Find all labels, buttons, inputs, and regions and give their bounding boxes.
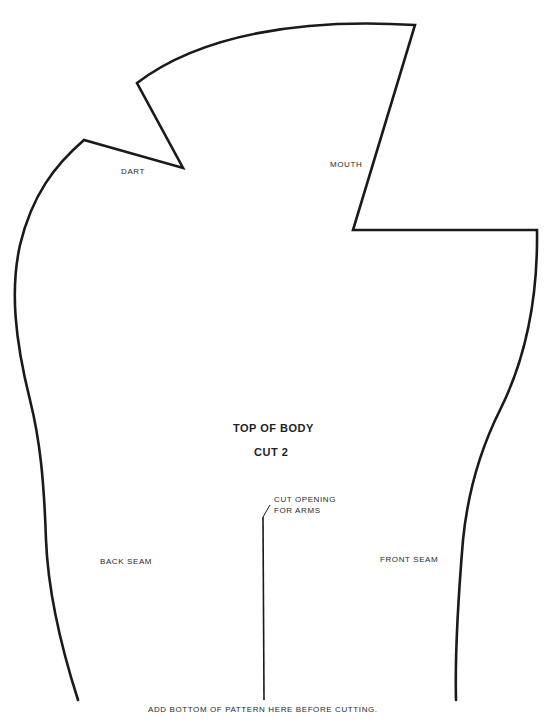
pattern-outline — [15, 23, 537, 700]
mouth-label: MOUTH — [330, 161, 362, 169]
footer-instruction: ADD BOTTOM OF PATTERN HERE BEFORE CUTTIN… — [148, 706, 378, 714]
arm-opening-label-line2: FOR ARMS — [274, 505, 336, 516]
pattern-outline-drawing — [0, 0, 547, 723]
arm-opening-label-line1: CUT OPENING — [274, 494, 336, 505]
front-seam-label: FRONT SEAM — [380, 556, 438, 564]
arm-opening-label: CUT OPENING FOR ARMS — [274, 494, 336, 516]
dart-label: DART — [121, 168, 145, 176]
arm-opening-leader-tick — [263, 505, 270, 517]
arm-opening-cut-line — [263, 517, 264, 700]
pattern-title: TOP OF BODY — [233, 423, 314, 434]
back-seam-label: BACK SEAM — [100, 558, 152, 566]
pattern-cut-count: CUT 2 — [254, 447, 288, 458]
